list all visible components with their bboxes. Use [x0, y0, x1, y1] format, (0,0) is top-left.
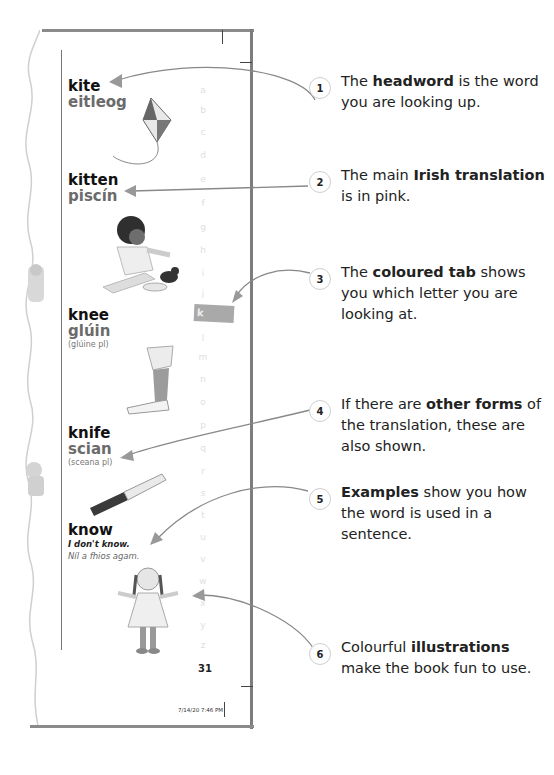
callout-text: The coloured tab shows you which letter … [341, 262, 551, 325]
callout-number: 3 [309, 268, 331, 290]
callout-3: 3 The coloured tab shows you which lette… [309, 262, 551, 325]
callout-number: 6 [309, 643, 331, 665]
callout-number: 5 [309, 488, 331, 510]
callout-number: 1 [309, 77, 331, 99]
callout-text: Examples show you how the word is used i… [341, 482, 551, 545]
callout-number: 4 [309, 400, 331, 422]
callout-5: 5 Examples show you how the word is used… [309, 482, 551, 545]
callout-number: 2 [309, 171, 331, 193]
callout-4: 4 If there are other forms of the transl… [309, 394, 551, 457]
callout-6: 6 Colourful illustrations make the book … [309, 637, 551, 679]
callout-text: The headword is the word you are looking… [341, 71, 551, 113]
callout-text: If there are other forms of the translat… [341, 394, 551, 457]
callout-2: 2 The main Irish translation is in pink. [309, 165, 551, 207]
callout-1: 1 The headword is the word you are looki… [309, 71, 551, 113]
callout-text: The main Irish translation is in pink. [341, 165, 551, 207]
callout-text: Colourful illustrations make the book fu… [341, 637, 551, 679]
